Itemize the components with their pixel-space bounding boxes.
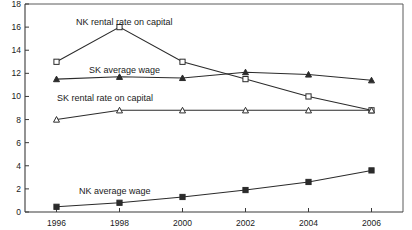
y-tick-label: 10 (12, 91, 22, 101)
y-axis-ticks: 024681012141618 (12, 0, 29, 217)
x-tick-label: 1996 (47, 218, 66, 228)
y-tick-label: 16 (12, 22, 22, 32)
series-annotation-label: SK average wage (89, 65, 160, 75)
annotation-layer: NK rental rate on capitalSK average wage… (57, 17, 173, 196)
y-tick-label: 14 (12, 45, 22, 55)
series-annotation-label: NK rental rate on capital (76, 17, 173, 27)
data-point-marker (369, 168, 374, 173)
y-tick-label: 8 (16, 115, 21, 125)
y-tick-label: 6 (16, 138, 21, 148)
line-chart: 024681012141618 199619982000200220042006… (0, 0, 412, 230)
data-point-marker (180, 59, 185, 64)
y-tick-label: 0 (16, 207, 21, 217)
data-point-marker (306, 179, 311, 184)
x-tick-label: 2004 (299, 218, 318, 228)
chart-frame (25, 4, 403, 212)
chart-container: 024681012141618 199619982000200220042006… (0, 0, 412, 230)
y-tick-label: 12 (12, 68, 22, 78)
x-tick-label: 1998 (110, 218, 129, 228)
series-layer (54, 25, 375, 210)
data-point-marker (180, 194, 185, 199)
x-tick-label: 2002 (236, 218, 255, 228)
x-tick-label: 2000 (173, 218, 192, 228)
data-point-marker (54, 59, 59, 64)
y-tick-label: 2 (16, 184, 21, 194)
y-tick-label: 18 (12, 0, 22, 9)
y-tick-label: 4 (16, 161, 21, 171)
data-point-marker (243, 187, 248, 192)
chart-series (54, 107, 375, 122)
series-line (57, 110, 372, 119)
series-annotation-label: SK rental rate on capital (57, 93, 153, 103)
data-point-marker (54, 204, 59, 209)
data-point-marker (306, 94, 311, 99)
series-annotation-label: NK average wage (79, 186, 151, 196)
x-tick-label: 2006 (362, 218, 381, 228)
data-point-marker (117, 200, 122, 205)
x-axis-ticks: 199619982000200220042006 (47, 208, 381, 228)
data-point-marker (243, 77, 248, 82)
